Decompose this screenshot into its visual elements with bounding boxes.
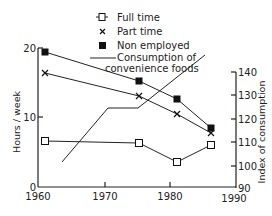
legend-item-part-time: Part time (100, 26, 163, 37)
y-tick-20: 20 (23, 43, 36, 54)
y-right-tick-90: 90 (238, 183, 251, 194)
y-right-tick-140: 140 (238, 67, 257, 78)
legend-label-part-time: Part time (117, 26, 163, 37)
x-tick-1960: 1960 (25, 191, 50, 202)
x-tick-1990: 1990 (221, 193, 246, 204)
legend-item-non-employed: Non employed (99, 40, 190, 51)
y-right-tick-130: 130 (238, 90, 257, 101)
open-square-icon (99, 14, 105, 21)
legend-label-non-employed: Non employed (117, 40, 190, 51)
y-right-tick-110: 110 (238, 137, 257, 148)
x-tick-1970: 1970 (92, 191, 117, 202)
x-tick-1980: 1980 (157, 191, 182, 202)
legend-label-consumption-2: convenience foods (105, 63, 199, 74)
y-tick-10: 10 (23, 112, 36, 123)
legend-item-consumption: Consumption of convenience foods (90, 52, 199, 74)
part-time-markers (42, 70, 214, 136)
series-full-time-line (45, 141, 211, 162)
y-right-tick-100: 100 (238, 161, 257, 172)
left-axis-label: Hours / week (11, 90, 22, 153)
legend: Full time Part time Non employed Consump… (90, 12, 199, 74)
chart: 0 10 20 Hours / week 1960 1970 1980 1990… (0, 0, 272, 216)
filled-square-icon (99, 42, 106, 49)
legend-label-consumption-1: Consumption of (117, 52, 197, 63)
legend-item-full-time: Full time (96, 12, 160, 23)
x-marker-icon (100, 29, 105, 34)
right-axis-label: Index of consumption (256, 81, 267, 184)
legend-label-full-time: Full time (117, 12, 160, 23)
series-part-time-line (45, 73, 211, 133)
y-right-tick-120: 120 (238, 114, 257, 125)
